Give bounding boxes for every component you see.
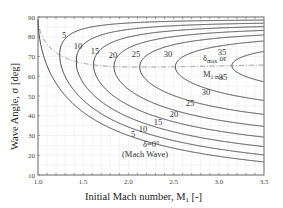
oblique-shock-chart: 1.01.52.02.53.03.5102030405060708090 510… (0, 0, 283, 208)
annotation-delta-max: δmax or (203, 53, 227, 64)
curve-delta-5 (60, 20, 264, 155)
curve-label: 25 (186, 98, 195, 108)
curve-label: 25 (132, 49, 141, 59)
x-tick-label: 2.5 (169, 178, 178, 186)
x-tick-label: 1.0 (34, 178, 43, 186)
y-tick-label: 50 (28, 93, 36, 101)
delta-max-dashed-line (38, 19, 264, 67)
curve-delta-20 (114, 30, 264, 126)
y-tick-label: 20 (28, 152, 36, 160)
x-tick-label: 1.5 (79, 178, 88, 186)
curve-delta-25 (140, 35, 264, 114)
y-tick-label: 80 (28, 33, 36, 41)
x-axis-title: Initial Mach number, M1 [-] (85, 191, 202, 204)
y-tick-label: 30 (28, 132, 36, 140)
annotation-mach-wave: (Mach Wave) (122, 149, 168, 159)
annotation-delta-zero: δ=0° (143, 139, 159, 149)
y-axis-title: Wave Angle, σ [deg] (9, 63, 20, 150)
curve-label: 10 (74, 41, 83, 51)
curve-label: 30 (164, 49, 173, 59)
curve-label: 30 (202, 87, 211, 97)
y-tick-label: 70 (28, 53, 36, 61)
curve-labels: 51015202530353530252015105 (62, 30, 227, 139)
x-tick-label: 3.0 (214, 178, 223, 186)
y-tick-label: 90 (28, 14, 36, 22)
y-tick-label: 60 (28, 73, 36, 81)
curve-label: 15 (154, 117, 163, 127)
y-tick-label: 40 (28, 112, 36, 120)
x-tick-label: 3.5 (260, 178, 269, 186)
annotation-m1-min: M1 min (203, 69, 223, 80)
curve-label: 20 (170, 109, 179, 119)
curve-label: 10 (139, 124, 148, 134)
curve-label: 5 (131, 129, 135, 139)
curve-label: 15 (91, 46, 100, 56)
x-tick-label: 2.0 (124, 178, 133, 186)
curve-label: 5 (62, 30, 66, 40)
curve-delta-10 (76, 23, 263, 146)
y-tick-label: 10 (28, 172, 36, 180)
curve-label: 20 (109, 50, 118, 60)
